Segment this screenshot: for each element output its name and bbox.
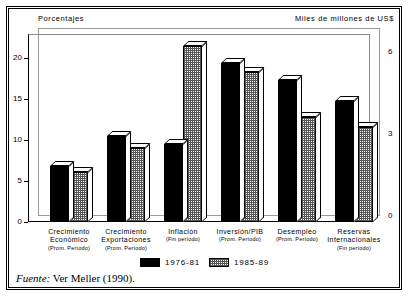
category-label-period: (Prom. Período) <box>91 245 161 251</box>
left-axis-caption: Porcentajes <box>38 14 84 23</box>
y-tick-mark-left <box>24 181 28 182</box>
bar-series1 <box>107 130 126 222</box>
bar-series1 <box>221 57 240 222</box>
bar-front <box>335 101 354 222</box>
bar-front <box>221 63 240 222</box>
figure-page: Porcentajes Miles de millones de US$ 051… <box>0 0 408 296</box>
y-tick-mark-left <box>24 140 28 141</box>
category-label-line1: Reservas <box>319 228 389 236</box>
bar-side-face <box>240 58 245 222</box>
bar-series1 <box>164 138 183 222</box>
y-tick-label-left: 10 <box>6 135 22 144</box>
category-label-line2: Internacionales <box>319 236 389 244</box>
bar-side-face <box>316 113 321 222</box>
category-label: ReservasInternacionales(Fin período) <box>319 228 389 251</box>
y-tick-label-right: 6 <box>388 47 392 56</box>
bar-side-face <box>126 131 131 222</box>
bar-front <box>50 166 69 222</box>
legend-item: 1985-89 <box>209 258 269 267</box>
y-tick-mark-left <box>24 58 28 59</box>
y-tick-mark-left <box>24 222 28 223</box>
bar-group <box>164 34 208 222</box>
bar-side-face <box>202 42 207 222</box>
source-value: Ver Meller (1990). <box>50 272 135 284</box>
bar-series1 <box>278 74 297 222</box>
bar-group <box>221 34 265 222</box>
chart-legend: 1976-811985-89 <box>140 258 269 267</box>
legend-item: 1976-81 <box>140 258 200 267</box>
bar-series1 <box>50 160 69 222</box>
y-tick-label-left: 20 <box>6 53 22 62</box>
bar-front <box>107 136 126 222</box>
bar-front <box>164 144 183 222</box>
bar-series1 <box>335 95 354 222</box>
bar-front <box>278 80 297 222</box>
legend-swatch <box>209 258 229 267</box>
y-tick-label-left: 5 <box>6 176 22 185</box>
bar-group <box>335 34 379 222</box>
bar-side-face <box>297 75 302 222</box>
bar-group <box>107 34 151 222</box>
plot-area <box>28 28 380 220</box>
y-tick-label-right: 3 <box>388 129 392 138</box>
source-label: Fuente: <box>16 272 50 284</box>
y-tick-label-right: 0 <box>388 211 392 220</box>
bar-group <box>50 34 94 222</box>
bar-side-face <box>373 122 378 222</box>
category-label-period: (Fin período) <box>319 245 389 251</box>
y-tick-mark-left <box>24 99 28 100</box>
bar-side-face <box>259 67 264 222</box>
legend-label: 1985-89 <box>234 258 269 267</box>
bar-side-face <box>69 162 74 222</box>
bar-group <box>278 34 322 222</box>
legend-swatch <box>140 258 160 267</box>
source-note: Fuente: Ver Meller (1990). <box>16 272 135 284</box>
legend-label: 1976-81 <box>165 258 200 267</box>
y-tick-label-left: 15 <box>6 94 22 103</box>
bar-side-face <box>354 96 359 222</box>
right-axis-caption: Miles de millones de US$ <box>295 14 394 23</box>
bar-side-face <box>88 167 93 222</box>
y-tick-label-left: 0 <box>6 217 22 226</box>
bar-side-face <box>183 140 188 222</box>
bar-side-face <box>145 144 150 222</box>
